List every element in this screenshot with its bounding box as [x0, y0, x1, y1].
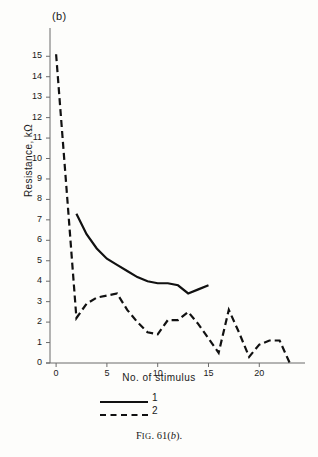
figure-caption: FIG. 61(b).	[0, 430, 318, 441]
legend-item-2: 2	[100, 409, 220, 422]
legend: 1 2	[100, 396, 220, 422]
data-series-layer	[56, 54, 290, 363]
plot-area	[0, 0, 318, 457]
caption-number: . 61(	[152, 430, 171, 441]
series-line-2	[56, 54, 290, 363]
legend-swatch-solid	[100, 401, 148, 403]
legend-label-2: 2	[152, 405, 158, 416]
x-axis-ticks	[56, 363, 259, 367]
legend-item-1: 1	[100, 396, 220, 409]
axes	[46, 28, 305, 367]
caption-smallcaps: IG	[142, 431, 152, 441]
caption-suffix: ).	[176, 430, 182, 441]
legend-swatch-dashed	[100, 414, 148, 416]
y-axis-ticks	[46, 56, 50, 363]
legend-label-1: 1	[152, 392, 158, 403]
figure-61b: (b) Resistance, kΩ No. of stimulus 01234…	[0, 0, 318, 457]
series-line-1	[76, 214, 208, 294]
